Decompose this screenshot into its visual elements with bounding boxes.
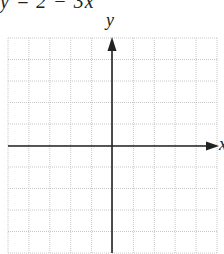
y-axis-arrow-icon	[108, 37, 117, 51]
coordinate-grid	[0, 0, 224, 254]
x-axis	[8, 142, 219, 151]
